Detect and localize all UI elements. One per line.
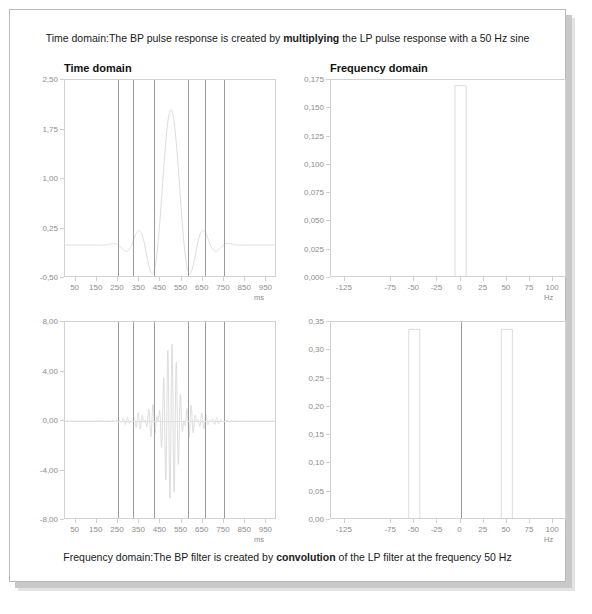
x-axis-tick-label: 50 bbox=[501, 525, 510, 534]
x-axis-tick-mark bbox=[244, 519, 245, 523]
y-axis-tick-label: 4,00 bbox=[16, 366, 58, 375]
y-axis-tick-mark bbox=[60, 371, 64, 372]
x-axis-tick-mark bbox=[436, 519, 437, 523]
x-axis-tick-mark bbox=[552, 519, 553, 523]
x-axis-tick-label: 950 bbox=[259, 283, 272, 292]
y-axis-tick-mark bbox=[326, 462, 330, 463]
caption-top: Time domain:The BP pulse response is cre… bbox=[10, 32, 565, 44]
y-axis-tick-label: 0,25 bbox=[16, 223, 58, 232]
y-axis-tick-mark bbox=[326, 491, 330, 492]
x-axis-tick-label: 250 bbox=[110, 525, 123, 534]
x-axis-tick-label: 650 bbox=[195, 283, 208, 292]
figure-container: Time domain:The BP pulse response is cre… bbox=[9, 9, 566, 582]
y-axis-tick-mark bbox=[60, 178, 64, 179]
caption-bottom: Frequency domain:The BP filter is create… bbox=[10, 551, 565, 563]
x-axis-tick-mark bbox=[529, 277, 530, 281]
x-axis-tick-mark bbox=[265, 277, 266, 281]
y-axis-tick-label: -0,50 bbox=[16, 273, 58, 282]
y-axis-tick-mark bbox=[326, 277, 330, 278]
axis-unit-label: ms bbox=[254, 535, 264, 544]
x-axis-tick-label: 50 bbox=[501, 283, 510, 292]
y-axis-tick-label: 0,175 bbox=[282, 75, 324, 84]
y-axis-tick-label: 0,025 bbox=[282, 244, 324, 253]
y-axis-tick-label: 0,05 bbox=[282, 486, 324, 495]
y-axis-tick-label: 0,150 bbox=[282, 103, 324, 112]
x-axis-tick-label: 550 bbox=[174, 525, 187, 534]
x-axis-tick-mark bbox=[436, 277, 437, 281]
axis-unit-label: ms bbox=[254, 293, 264, 302]
caption-bottom-post: of the LP filter at the frequency 50 Hz bbox=[336, 551, 512, 563]
plot-area-bp-filter-frequency bbox=[330, 321, 566, 519]
time-marker-line bbox=[154, 80, 155, 277]
x-axis-tick-mark bbox=[344, 519, 345, 523]
y-axis-tick-label: 0,100 bbox=[282, 159, 324, 168]
time-marker-line bbox=[205, 80, 206, 277]
time-marker-line bbox=[224, 80, 225, 277]
caption-bottom-pre: Frequency domain:The BP filter is create… bbox=[63, 551, 276, 563]
lp-filter-curve bbox=[331, 80, 566, 277]
y-axis-tick-mark bbox=[326, 220, 330, 221]
x-axis-tick-label: 100 bbox=[545, 283, 558, 292]
y-axis-tick-mark bbox=[326, 378, 330, 379]
x-axis-tick-mark bbox=[202, 519, 203, 523]
x-axis-tick-mark bbox=[344, 277, 345, 281]
x-axis-tick-label: 25 bbox=[478, 525, 487, 534]
lp-pulse-curve bbox=[65, 80, 276, 277]
y-axis-tick-label: 1,00 bbox=[16, 174, 58, 183]
x-axis-tick-mark bbox=[506, 519, 507, 523]
x-axis-tick-mark bbox=[265, 519, 266, 523]
y-axis-tick-mark bbox=[60, 321, 64, 322]
x-axis-tick-mark bbox=[413, 519, 414, 523]
x-axis-tick-label: 75 bbox=[525, 525, 534, 534]
x-axis-tick-label: 450 bbox=[153, 525, 166, 534]
y-axis-tick-mark bbox=[326, 164, 330, 165]
panel-title-time-domain: Time domain bbox=[64, 62, 132, 74]
x-axis-tick-label: 850 bbox=[238, 525, 251, 534]
x-axis-tick-label: 850 bbox=[238, 283, 251, 292]
x-axis-tick-label: -125 bbox=[336, 525, 352, 534]
x-axis-tick-mark bbox=[96, 277, 97, 281]
x-axis-tick-label: 100 bbox=[545, 525, 558, 534]
x-axis-tick-label: 25 bbox=[478, 283, 487, 292]
time-marker-line bbox=[188, 80, 189, 277]
x-axis-tick-label: 650 bbox=[195, 525, 208, 534]
x-axis-tick-mark bbox=[181, 519, 182, 523]
y-axis-tick-label: 0,050 bbox=[282, 216, 324, 225]
x-axis-tick-label: 250 bbox=[110, 283, 123, 292]
y-axis-tick-label: 8,00 bbox=[16, 317, 58, 326]
x-axis-tick-label: 50 bbox=[70, 525, 79, 534]
zero-baseline bbox=[65, 421, 275, 422]
y-axis-tick-mark bbox=[60, 129, 64, 130]
x-axis-tick-label: 50 bbox=[70, 283, 79, 292]
caption-top-pre: Time domain:The BP pulse response is cre… bbox=[46, 32, 284, 44]
x-axis-tick-mark bbox=[117, 519, 118, 523]
x-axis-tick-label: 150 bbox=[89, 283, 102, 292]
y-axis-tick-mark bbox=[60, 228, 64, 229]
time-marker-line bbox=[133, 80, 134, 277]
x-axis-tick-mark bbox=[75, 519, 76, 523]
x-axis-tick-mark bbox=[244, 277, 245, 281]
plot-area-lp-pulse-time bbox=[64, 79, 276, 277]
y-axis-tick-label: 1,75 bbox=[16, 124, 58, 133]
y-axis-tick-label: 0,20 bbox=[282, 401, 324, 410]
x-axis-tick-mark bbox=[96, 519, 97, 523]
x-axis-tick-mark bbox=[413, 277, 414, 281]
caption-top-post: the LP pulse response with a 50 Hz sine bbox=[339, 32, 529, 44]
x-axis-tick-mark bbox=[202, 277, 203, 281]
y-axis-tick-label: 0,10 bbox=[282, 458, 324, 467]
x-axis-tick-label: -50 bbox=[408, 283, 420, 292]
y-axis-tick-mark bbox=[326, 349, 330, 350]
zero-frequency-marker-line bbox=[461, 322, 462, 519]
y-axis-tick-label: 0,000 bbox=[282, 273, 324, 282]
x-axis-tick-label: -75 bbox=[384, 283, 396, 292]
y-axis-tick-label: 0,00 bbox=[16, 416, 58, 425]
y-axis-tick-mark bbox=[326, 434, 330, 435]
y-axis-tick-label: 0,00 bbox=[282, 515, 324, 524]
x-axis-tick-mark bbox=[529, 519, 530, 523]
panel-title-frequency-domain: Frequency domain bbox=[330, 62, 428, 74]
y-axis-tick-label: 0,35 bbox=[282, 317, 324, 326]
y-axis-tick-mark bbox=[326, 249, 330, 250]
x-axis-tick-label: 750 bbox=[216, 283, 229, 292]
x-axis-tick-mark bbox=[117, 277, 118, 281]
y-axis-tick-label: 0,125 bbox=[282, 131, 324, 140]
